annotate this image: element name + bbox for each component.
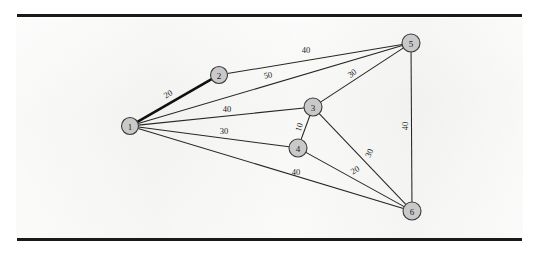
edge-weight-3-5: 30 [346,66,359,79]
edge-weight-3-4: 10 [293,121,305,132]
edge-1-4 [138,127,289,147]
graph-node-label-3: 3 [311,103,316,113]
edge-labels-layer: 2050403040403010302040 [162,45,410,177]
nodes-layer: 123456 [122,34,422,220]
figure-page: 2050403040403010302040 123456 [0,0,539,258]
edge-weight-1-6: 40 [292,167,301,177]
edge-weight-2-5: 40 [302,45,311,55]
graph-node-label-5: 5 [409,39,414,49]
edge-weight-1-3: 40 [223,104,232,114]
graph-node-label-6: 6 [410,207,415,217]
edges-layer [137,44,412,208]
edge-weight-4-6: 20 [349,164,361,177]
edge-1-6 [138,128,403,208]
graph-node-label-4: 4 [296,144,301,154]
graph-node-label-2: 2 [217,71,222,81]
edge-1-2 [137,79,211,122]
edge-weight-1-4: 30 [220,126,229,136]
edge-4-6 [306,152,404,206]
edge-weight-5-6: 40 [400,122,410,131]
edge-weight-3-6: 30 [363,147,376,159]
graph-diagram: 2050403040403010302040 123456 [0,0,539,258]
edge-weight-1-2: 20 [162,88,174,101]
edge-2-5 [227,44,402,73]
edge-3-6 [319,114,406,205]
edge-weight-1-5: 50 [263,69,273,81]
graph-node-label-1: 1 [128,122,133,132]
edge-5-6 [411,52,412,202]
